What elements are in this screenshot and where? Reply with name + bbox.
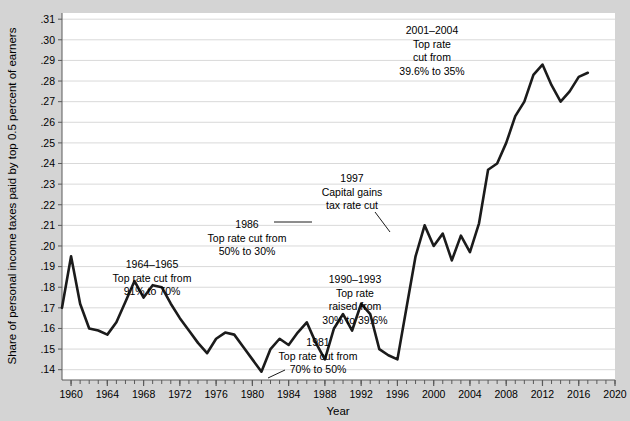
y-axis-tick-label: .20 — [40, 240, 55, 252]
y-axis-tick-label: .17 — [40, 302, 55, 314]
annotation-line: 39.6% to 35% — [399, 65, 464, 77]
x-axis-title: Year — [326, 405, 349, 417]
annotation-line: Top rate — [413, 38, 451, 50]
x-axis-tick-label: 1996 — [386, 388, 410, 400]
annotation-line: 30% to 39.6% — [322, 314, 387, 326]
x-axis-tick-label: 2004 — [458, 388, 482, 400]
x-axis-tick-label: 1960 — [59, 388, 83, 400]
x-axis-tick-label: 1984 — [277, 388, 301, 400]
x-axis-tick-label: 1968 — [132, 388, 156, 400]
annotation-line: Top rate cut from — [208, 232, 287, 244]
x-axis-minor-ticks — [71, 380, 615, 384]
y-axis-tick-label: .18 — [40, 281, 55, 293]
y-axis-tick-label: .21 — [40, 219, 55, 231]
y-axis-tick-label: .19 — [40, 260, 55, 272]
y-axis-tick-label: .24 — [40, 157, 55, 169]
y-axis-tick-label: .15 — [40, 343, 55, 355]
annotation-line: Capital gains — [322, 186, 383, 198]
x-axis-tick-label: 1988 — [313, 388, 337, 400]
annotation-line: 70% to 50% — [290, 363, 347, 375]
y-axis-tick-label: .27 — [40, 95, 55, 107]
y-axis-tick-label: .14 — [40, 363, 55, 375]
x-axis-tick-label: 2000 — [422, 388, 446, 400]
annotation-line: 1981 — [306, 336, 330, 348]
annotation-line: 1990–1993 — [329, 273, 382, 285]
annotation-line: 1964–1965 — [126, 258, 179, 270]
y-axis-tick-label: .28 — [40, 75, 55, 87]
y-axis-tick-label: .25 — [40, 137, 55, 149]
x-axis-tick-label: 1972 — [168, 388, 192, 400]
annotation-line: Top rate — [336, 287, 374, 299]
annotation-line: tax rate cut — [326, 199, 378, 211]
x-axis-tick-label: 1976 — [204, 388, 228, 400]
y-axis-tick-label: .22 — [40, 199, 55, 211]
x-axis-tick-label: 2016 — [567, 388, 591, 400]
y-axis-title: Share of personal income taxes paid by t… — [6, 27, 18, 364]
x-axis-tick-label: 2008 — [495, 388, 519, 400]
annotation-line: cut from — [413, 51, 451, 63]
y-axis-tick-label: .16 — [40, 322, 55, 334]
y-axis-tick-label: .26 — [40, 116, 55, 128]
tax-share-line-chart: .14.15.16.17.18.19.20.21.22.23.24.25.26.… — [0, 0, 630, 421]
y-axis-tick-label: .31 — [40, 13, 55, 25]
annotation-line: 2001–2004 — [406, 24, 459, 36]
y-axis-tick-label: .23 — [40, 178, 55, 190]
x-axis-tick-label: 1992 — [349, 388, 373, 400]
x-axis-tick-label: 1980 — [241, 388, 265, 400]
annot-1990-1993: 1990–1993Top rateraised from30% to 39.6% — [322, 273, 387, 326]
y-axis-tick-label: .30 — [40, 34, 55, 46]
annotation-line: Top rate cut from — [279, 350, 358, 362]
annotation-line: raised from — [329, 300, 382, 312]
annotation-line: 1997 — [340, 172, 364, 184]
annotation-line: 50% to 30% — [219, 245, 276, 257]
x-axis-tick-label: 2020 — [603, 388, 627, 400]
annotation-line: 91% to 70% — [124, 285, 181, 297]
annotation-line: 1986 — [235, 218, 259, 230]
annotation-line: Top rate cut from — [113, 272, 192, 284]
y-axis-tick-label: .29 — [40, 54, 55, 66]
x-axis-tick-label: 2012 — [531, 388, 555, 400]
x-axis-tick-label: 1964 — [96, 388, 120, 400]
chart-figure: .14.15.16.17.18.19.20.21.22.23.24.25.26.… — [0, 0, 630, 421]
